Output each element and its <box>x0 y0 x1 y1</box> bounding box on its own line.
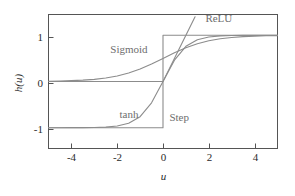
x-ticklabel--4: -4 <box>67 151 77 163</box>
curve-label-relu: ReLU <box>205 12 232 24</box>
y-axis-title: h(u) <box>12 74 25 93</box>
curve-label-step: Step <box>169 111 189 123</box>
x-ticklabel-4: 4 <box>253 151 259 163</box>
x-axis-ticks <box>72 144 256 149</box>
x-ticklabel-2: 2 <box>207 151 213 163</box>
chart-canvas: -4 -2 0 2 4 1 0 -1 u h(u) SigmoidtanhReL… <box>0 0 295 196</box>
y-ticklabel--1: -1 <box>34 123 43 135</box>
curve-label-tanh: tanh <box>120 108 139 120</box>
curve-label-sigmoid: Sigmoid <box>110 43 148 55</box>
x-ticklabel--2: -2 <box>113 151 122 163</box>
y-axis-ticks <box>49 38 54 130</box>
activation-functions-figure: -4 -2 0 2 4 1 0 -1 u h(u) SigmoidtanhReL… <box>0 0 295 196</box>
y-axis-title-text: h(u) <box>12 74 25 93</box>
y-ticklabel-1: 1 <box>38 31 44 43</box>
x-axis-title: u <box>161 170 167 182</box>
x-ticklabel-0: 0 <box>161 151 167 163</box>
y-ticklabel-0: 0 <box>38 77 44 89</box>
